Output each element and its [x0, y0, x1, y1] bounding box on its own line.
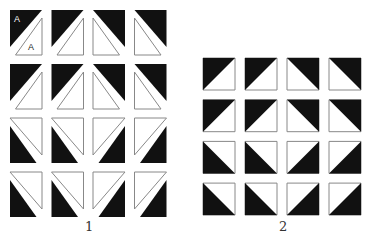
figure-2-label: 2: [279, 219, 287, 234]
letter-a-white: A: [28, 42, 34, 52]
letter-a-dark: A: [14, 14, 20, 24]
tiling-diagram: AA: [0, 0, 370, 244]
figure-1-label: 1: [85, 219, 93, 234]
